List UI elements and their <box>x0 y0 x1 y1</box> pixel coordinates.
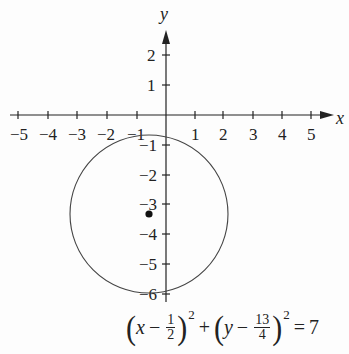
y-tick-label: −1 <box>139 136 157 155</box>
var-x: x <box>136 316 145 339</box>
chart-figure: y x −5 −4 −3 −2 −1 1 2 3 4 5 2 1 −1 −2 −… <box>0 0 349 354</box>
fraction-denominator: 4 <box>259 328 266 342</box>
y-tick-label: −5 <box>139 255 157 274</box>
y-tick-label: 1 <box>147 76 156 95</box>
fraction-thirteen-fourths: 13 4 <box>254 313 270 342</box>
plus-sign: + <box>199 316 210 339</box>
paren-close: ) <box>272 310 282 345</box>
x-axis-arrow-icon <box>320 111 334 119</box>
circle-equation: ( x − 1 2 ) 2 + ( y − 13 4 ) 2 = 7 <box>126 312 319 342</box>
y-tick-labels: 2 1 −1 −2 −3 −4 −5 −6 <box>139 46 158 304</box>
fraction-denominator: 2 <box>167 328 174 342</box>
y-axis-arrow-icon <box>162 30 170 44</box>
paren-open: ( <box>126 310 136 345</box>
x-tick-label: −2 <box>97 125 115 144</box>
var-y: y <box>224 316 233 339</box>
y-tick-label: −6 <box>139 285 157 304</box>
x-tick-label: −4 <box>39 125 58 144</box>
y-tick-label: −2 <box>139 166 157 185</box>
y-tick-label: 2 <box>147 46 156 65</box>
x-tick-label: −5 <box>10 125 28 144</box>
x-tick-label: 1 <box>191 125 200 144</box>
x-tick-labels: −5 −4 −3 −2 −1 1 2 3 4 5 <box>10 125 316 144</box>
y-axis-label: y <box>158 4 168 24</box>
minus-sign: − <box>149 316 160 339</box>
fraction-one-half: 1 2 <box>166 313 175 342</box>
exponent: 2 <box>188 307 195 323</box>
plot-area: y x −5 −4 −3 −2 −1 1 2 3 4 5 2 1 −1 −2 −… <box>0 0 349 354</box>
paren-close: ) <box>177 310 187 345</box>
paren-open: ( <box>214 310 224 345</box>
minus-sign: − <box>237 316 248 339</box>
x-tick-label: 2 <box>219 125 228 144</box>
x-tick-label: 3 <box>249 125 258 144</box>
equals-sign: = <box>294 316 305 339</box>
y-tick-label: −4 <box>139 225 158 244</box>
rhs-value: 7 <box>309 316 319 339</box>
fraction-numerator: 1 <box>166 313 175 328</box>
x-tick-label: 5 <box>307 125 316 144</box>
exponent: 2 <box>283 307 290 323</box>
x-axis-label: x <box>335 108 344 128</box>
x-tick-label: −3 <box>68 125 86 144</box>
x-tick-label: 4 <box>278 125 287 144</box>
fraction-numerator: 13 <box>254 313 270 328</box>
center-point <box>145 210 152 217</box>
